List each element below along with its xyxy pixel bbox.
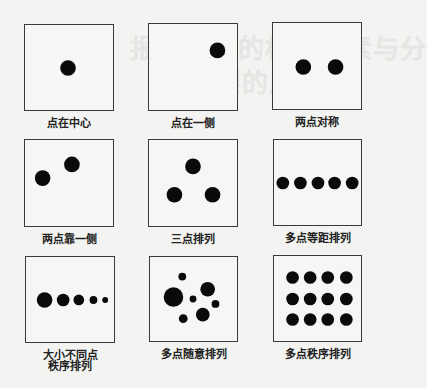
dot-icon: [321, 271, 334, 284]
dot-icon: [346, 177, 359, 190]
panel-caption: 秩序排列: [10, 361, 130, 373]
dot-icon: [212, 300, 220, 308]
dot-icon: [321, 313, 334, 326]
composition-panel: [148, 23, 238, 111]
dot-layout: [273, 23, 361, 109]
dot-layout: [274, 140, 361, 225]
dot-icon: [64, 157, 80, 173]
dot-icon: [321, 293, 334, 306]
dot-icon: [60, 60, 76, 76]
dot-icon: [37, 292, 53, 308]
dot-icon: [304, 271, 317, 284]
dot-icon: [340, 293, 353, 306]
dot-icon: [286, 293, 299, 306]
dot-icon: [200, 282, 215, 297]
composition-panel: [25, 256, 115, 343]
dot-icon: [102, 297, 108, 303]
composition-panel: [273, 255, 362, 342]
composition-panel: [24, 24, 114, 111]
dot-icon: [304, 293, 317, 306]
dot-icon: [196, 308, 210, 322]
dot-icon: [73, 295, 84, 306]
dot-icon: [340, 313, 353, 326]
panel-caption: 三点排列: [133, 234, 253, 246]
dot-icon: [276, 177, 289, 190]
dot-icon: [328, 59, 344, 75]
composition-panel: [148, 139, 238, 227]
dot-icon: [296, 59, 312, 75]
composition-panel: [149, 256, 238, 342]
dot-icon: [294, 177, 307, 190]
panel-caption: 点在中心: [9, 118, 129, 130]
panel-caption: 两点靠一侧: [9, 234, 129, 246]
dot-icon: [190, 296, 197, 303]
dot-layout: [26, 257, 114, 342]
panel-caption: 多点秩序排列: [258, 349, 378, 361]
dot-icon: [210, 43, 226, 59]
panel-caption: 点在一侧: [133, 118, 253, 130]
dot-icon: [90, 296, 98, 304]
panel-caption: 多点随意排列: [134, 349, 254, 361]
composition-panel: [24, 139, 114, 227]
composition-panel: [272, 22, 362, 110]
dot-layout: [149, 24, 237, 110]
dot-icon: [205, 187, 221, 203]
dot-layout: [149, 140, 237, 226]
dot-icon: [57, 294, 70, 307]
dot-icon: [185, 159, 201, 175]
dot-icon: [286, 271, 299, 284]
panel-caption: 两点对称: [257, 117, 377, 129]
dot-icon: [178, 273, 186, 281]
dot-icon: [328, 177, 341, 190]
composition-panel: [273, 139, 362, 226]
dot-icon: [35, 170, 51, 186]
dot-icon: [340, 271, 353, 284]
dot-icon: [312, 177, 325, 190]
dot-layout: [274, 256, 361, 341]
panel-caption: 多点等距排列: [258, 233, 378, 245]
dot-icon: [164, 287, 184, 307]
dot-layout: [25, 25, 113, 110]
dot-layout: [25, 140, 113, 226]
dot-icon: [286, 313, 299, 326]
dot-icon: [167, 187, 183, 203]
dot-icon: [179, 314, 188, 323]
dot-icon: [304, 313, 317, 326]
dot-layout: [150, 257, 237, 341]
